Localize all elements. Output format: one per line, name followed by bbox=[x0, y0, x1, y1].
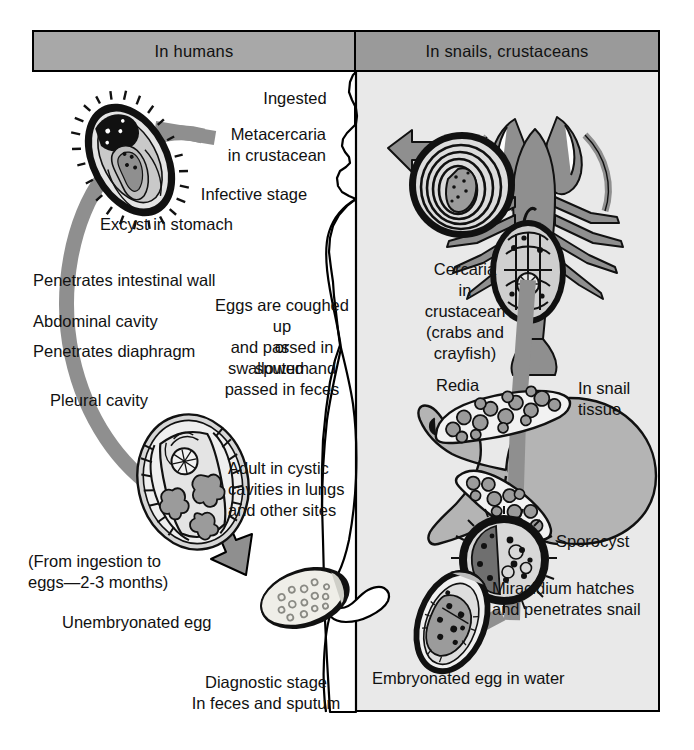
label-diagnostic-stage: Diagnostic stage In feces and sputum bbox=[174, 672, 358, 714]
label-abdominal-cavity: Abdominal cavity bbox=[33, 311, 233, 332]
header-in-humans-label: In humans bbox=[155, 42, 234, 61]
label-excyst-in-stomach: Excyst in stomach bbox=[100, 214, 310, 235]
label-swallowed-passed-in-feces: swallowed and passed in feces bbox=[214, 358, 350, 400]
header-in-snails-crustaceans: In snails, crustaceans bbox=[354, 30, 660, 72]
label-in-snail-tissue: In snail tissue bbox=[578, 378, 668, 420]
header-in-snails-crustaceans-label: In snails, crustaceans bbox=[425, 42, 588, 61]
label-or: or bbox=[214, 337, 350, 358]
label-adult-in-cystic-cavities: Adult in cystic cavities in lungs and ot… bbox=[228, 458, 368, 521]
header-in-humans: In humans bbox=[32, 30, 356, 72]
label-cercaria-in-crustacean: Cercaria in crustacean (crabs and crayfi… bbox=[406, 259, 524, 364]
label-ingested: Ingested bbox=[236, 88, 354, 109]
label-redia: Redia bbox=[436, 375, 526, 396]
life-cycle-figure: In humans In snails, crustaceans Ingeste… bbox=[0, 0, 694, 750]
label-penetrates-intestinal-wall: Penetrates intestinal wall bbox=[33, 270, 293, 291]
label-embryonated-egg-in-water: Embryonated egg in water bbox=[372, 668, 622, 689]
label-from-ingestion-duration: (From ingestion to eggs—2-3 months) bbox=[28, 551, 228, 593]
label-sporocyst: Sporocyst bbox=[556, 531, 666, 552]
label-metacercaria-in-crustacean: Metacercaria in crustacean bbox=[178, 124, 326, 166]
label-pleural-cavity: Pleural cavity bbox=[50, 390, 230, 411]
label-infective-stage: Infective stage bbox=[182, 184, 326, 205]
label-miracidium-hatches: Miracidium hatches and penetrates snail bbox=[492, 578, 672, 620]
label-unembryonated-egg: Unembryonated egg bbox=[62, 612, 272, 633]
metacercaria-cyst-crayfish bbox=[409, 132, 515, 238]
